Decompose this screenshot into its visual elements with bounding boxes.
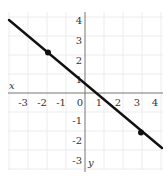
y-tick-label: -1 — [72, 115, 82, 126]
x-tick-label: -2 — [37, 97, 47, 108]
x-tick-labels: -3 -2 -1 0 1 2 3 4 — [18, 97, 158, 108]
y-tick-label: 4 — [76, 15, 82, 26]
x-tick-label: -1 — [56, 97, 66, 108]
x-tick-label: 4 — [152, 97, 158, 108]
data-point — [45, 50, 51, 56]
y-tick-labels: 4 3 2 1 -1 -2 -3 — [72, 15, 82, 166]
x-tick-label: 0 — [77, 97, 83, 108]
y-tick-label: 2 — [76, 55, 82, 66]
y-tick-label: -3 — [72, 155, 82, 166]
x-tick-label: 2 — [115, 97, 121, 108]
y-tick-label: -2 — [72, 135, 82, 146]
x-tick-label: 3 — [134, 97, 140, 108]
coordinate-plane: x y -3 -2 -1 0 1 2 3 4 4 3 2 1 -1 -2 -3 — [0, 0, 167, 182]
x-axis-label: x — [9, 80, 15, 91]
y-tick-label: 3 — [76, 35, 82, 46]
data-point — [138, 130, 144, 136]
x-tick-label: -3 — [18, 97, 28, 108]
y-axis-label: y — [87, 157, 94, 168]
